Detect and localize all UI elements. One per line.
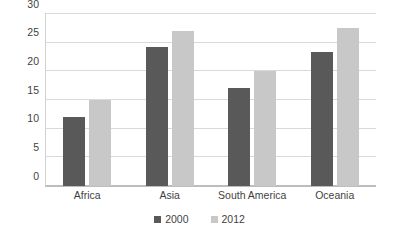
- bar: [254, 71, 276, 186]
- y-axis-tick-label: 25: [27, 27, 46, 38]
- x-axis-category-label: Oceania: [294, 190, 377, 202]
- bar-group: [211, 14, 294, 186]
- x-axis-line: [45, 186, 376, 187]
- x-axis-category-label: Asia: [129, 190, 212, 202]
- bar-group: [46, 14, 129, 186]
- bar-group: [294, 14, 377, 186]
- y-axis-tick-label: 30: [27, 0, 46, 9]
- legend-label: 2000: [165, 214, 188, 225]
- x-axis-category-label: Africa: [46, 190, 129, 202]
- legend-swatch-icon: [211, 216, 218, 223]
- legend-item[interactable]: 2012: [211, 214, 245, 225]
- bar-group: [129, 14, 212, 186]
- bar: [337, 28, 359, 186]
- y-axis-tick-label: 20: [27, 56, 46, 67]
- bar-groups: [46, 14, 376, 186]
- legend-label: 2012: [222, 214, 245, 225]
- bar: [63, 117, 85, 186]
- y-axis-tick-label: 10: [27, 113, 46, 124]
- bar: [172, 31, 194, 186]
- y-axis-tick-label: 15: [27, 84, 46, 95]
- plot-area: 051015202530: [46, 14, 376, 186]
- bar-chart: 051015202530 AfricaAsiaSouth AmericaOcea…: [0, 0, 399, 240]
- legend-item[interactable]: 2000: [154, 214, 188, 225]
- bar: [89, 100, 111, 186]
- x-axis-category-labels: AfricaAsiaSouth AmericaOceania: [46, 190, 376, 202]
- bar: [311, 52, 333, 186]
- chart-legend: 20002012: [0, 214, 399, 225]
- y-axis-tick-label: 0: [33, 170, 46, 181]
- legend-swatch-icon: [154, 216, 161, 223]
- bar: [228, 88, 250, 186]
- x-axis-category-label: South America: [211, 190, 294, 202]
- bar: [146, 47, 168, 186]
- y-axis-tick-label: 5: [33, 142, 46, 153]
